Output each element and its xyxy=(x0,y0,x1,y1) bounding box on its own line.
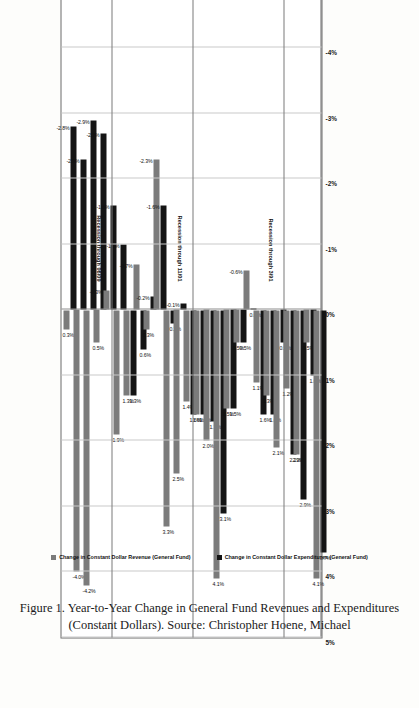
legend-item-expenditures: Change in Constant Dollar Expenditures (… xyxy=(217,554,368,560)
bar-revenue xyxy=(213,310,219,579)
bar-revenue xyxy=(133,264,139,310)
bar-revenue xyxy=(153,159,159,310)
chart-row: -0.7%0.6% xyxy=(131,0,141,638)
chart-row: 2.2%2.9% xyxy=(291,0,301,638)
x-tick-label: -1% xyxy=(325,246,336,253)
chart-row: 4.1%3.1% xyxy=(211,0,221,638)
recession-divider xyxy=(111,0,112,638)
chart-row: -4.2%-2.9% xyxy=(81,0,91,638)
bar-value-label: -2.7% xyxy=(86,131,99,137)
chart-row: -0.6%0.0% xyxy=(241,0,251,638)
rotated-chart-wrapper: 0.3%-2.8%-4.0%-2.3%-4.2%-2.9%0.5%-2.7%-0… xyxy=(60,0,360,639)
bar-revenue xyxy=(223,310,229,408)
bar-revenue xyxy=(143,310,149,330)
recession-divider xyxy=(283,0,284,638)
figure-caption: Figure 1. Year-to-Year Change in General… xyxy=(0,600,419,634)
bar-revenue xyxy=(243,271,249,310)
chart-row: 1.3%1.3% xyxy=(121,0,131,638)
chart-row: -0.3%-1.6% xyxy=(101,0,111,638)
legend-label-expenditures: Change in Constant Dollar Expenditures (… xyxy=(225,554,368,560)
chart-rows: 0.3%-2.8%-4.0%-2.3%-4.2%-2.9%0.5%-2.7%-0… xyxy=(61,0,321,638)
gridline-neg2 xyxy=(61,178,321,179)
legend-swatch-revenue xyxy=(51,555,56,560)
figure-page: 0.3%-2.8%-4.0%-2.3%-4.2%-2.9%0.5%-2.7%-0… xyxy=(0,0,419,708)
recession-label: Recession through 06/09 xyxy=(95,216,101,282)
legend-item-revenue: Change in Constant Dollar Revenue (Gener… xyxy=(51,554,191,560)
bar-revenue xyxy=(123,310,129,395)
bar-revenue xyxy=(113,310,119,434)
x-tick-label: 5% xyxy=(325,639,334,646)
chart-row: 1.5%1.5% xyxy=(221,0,231,638)
gridline-0 xyxy=(61,309,321,310)
bar-value-label: -1.6% xyxy=(96,203,109,209)
chart-row: 0.3%-0.2% xyxy=(141,0,151,638)
gridline-1 xyxy=(61,375,321,376)
x-tick-label: 0% xyxy=(325,311,334,318)
gridline-2 xyxy=(61,440,321,441)
x-tick-label: -2% xyxy=(325,180,336,187)
chart-row: 0.5%-2.7% xyxy=(91,0,101,638)
bar-value-label: -2.8% xyxy=(56,125,69,131)
chart-row: 4.1%3.7% xyxy=(311,0,321,638)
chart-row: -2.3%-1.6% xyxy=(151,0,161,638)
chart-plot-area: 0.3%-2.8%-4.0%-2.3%-4.2%-2.9%0.5%-2.7%-0… xyxy=(60,0,322,639)
chart-row: 2.1%0.5% xyxy=(271,0,281,638)
gridline-neg3 xyxy=(61,113,321,114)
bar-revenue xyxy=(253,310,259,382)
bar-revenue xyxy=(203,310,209,441)
bar-revenue xyxy=(63,310,69,330)
x-axis-line xyxy=(320,0,321,638)
x-tick-label: -4% xyxy=(325,49,336,56)
bar-revenue xyxy=(233,310,239,343)
chart-row: 2.0%1.7% xyxy=(201,0,211,638)
bar-revenue xyxy=(93,310,99,343)
bar-value-label: -2.9% xyxy=(76,118,89,124)
bar-revenue xyxy=(263,310,269,395)
x-tick-label: 1% xyxy=(325,377,334,384)
x-tick-label: 3% xyxy=(325,508,334,515)
bar-revenue xyxy=(273,310,279,448)
bar-revenue xyxy=(173,310,179,474)
chart-row: 1.3%1.6% xyxy=(261,0,271,638)
bar-revenue xyxy=(293,310,299,454)
bar-revenue xyxy=(193,310,199,415)
chart-row: 0.5%1.0% xyxy=(301,0,311,638)
gridline-3 xyxy=(61,506,321,507)
recession-label: Recession through 3/91 xyxy=(267,219,273,282)
chart-row: -4.0%-2.3% xyxy=(71,0,81,638)
bar-value-label: -0.6% xyxy=(229,269,242,275)
x-tick-label: 4% xyxy=(325,573,334,580)
chart-row: 2.5%-0.1% xyxy=(171,0,181,638)
bar-revenue xyxy=(313,310,319,579)
bar-revenue xyxy=(303,310,309,343)
bar-value-label: -0.2% xyxy=(136,295,149,301)
chart-row: 1.1%1.6% xyxy=(251,0,261,638)
bar-revenue xyxy=(83,310,89,585)
bar-revenue xyxy=(103,290,109,310)
bar-value-label: -0.7% xyxy=(119,262,132,268)
gridline-neg4 xyxy=(61,47,321,48)
legend-swatch-expenditures xyxy=(217,555,222,560)
legend-label-revenue: Change in Constant Dollar Revenue (Gener… xyxy=(59,554,191,560)
bar-value-label: -0.1% xyxy=(166,301,179,307)
chart-row: 0.3%-2.8% xyxy=(61,0,71,638)
chart-row: 0.5%0.5% xyxy=(231,0,241,638)
gridline-5 xyxy=(61,637,321,638)
bar-revenue xyxy=(183,310,189,402)
bar-value-label: -1.6% xyxy=(146,203,159,209)
recession-label: Recession through 11/01 xyxy=(176,216,182,282)
bar-revenue xyxy=(73,310,79,572)
chart-row: 3.3%0.2% xyxy=(161,0,171,638)
bar-value-label: -0.3% xyxy=(89,288,102,294)
x-axis-ticks: 5%4%3%2%1%0%-1%-2%-3%-4%-5% xyxy=(322,0,356,639)
chart-legend: Change in Constant Dollar Revenue (Gener… xyxy=(0,545,419,569)
bar-value-label: -2.3% xyxy=(66,157,79,163)
bar-value-label: -2.3% xyxy=(139,157,152,163)
gridline-4 xyxy=(61,571,321,572)
bar-revenue xyxy=(163,310,169,526)
recession-divider xyxy=(192,0,193,638)
x-tick-label: 2% xyxy=(325,442,334,449)
x-tick-label: -3% xyxy=(325,115,336,122)
chart-row: 1.4%1.6% xyxy=(181,0,191,638)
